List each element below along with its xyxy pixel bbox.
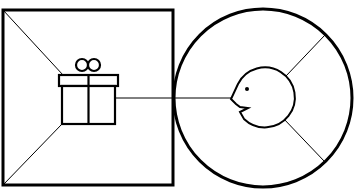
face-icon: [231, 67, 295, 127]
gift-icon: [59, 59, 118, 124]
gift-bow-right: [88, 59, 100, 71]
face-head: [231, 67, 295, 127]
square-diagonal-bottom: [3, 124, 62, 185]
face-eye: [245, 87, 249, 91]
diagram-canvas: [0, 0, 358, 191]
gift-bow-left: [76, 59, 88, 71]
circle-spoke-top: [286, 35, 325, 76]
square-diagonal-top: [3, 10, 63, 75]
circle-spoke-bottom: [283, 118, 325, 162]
